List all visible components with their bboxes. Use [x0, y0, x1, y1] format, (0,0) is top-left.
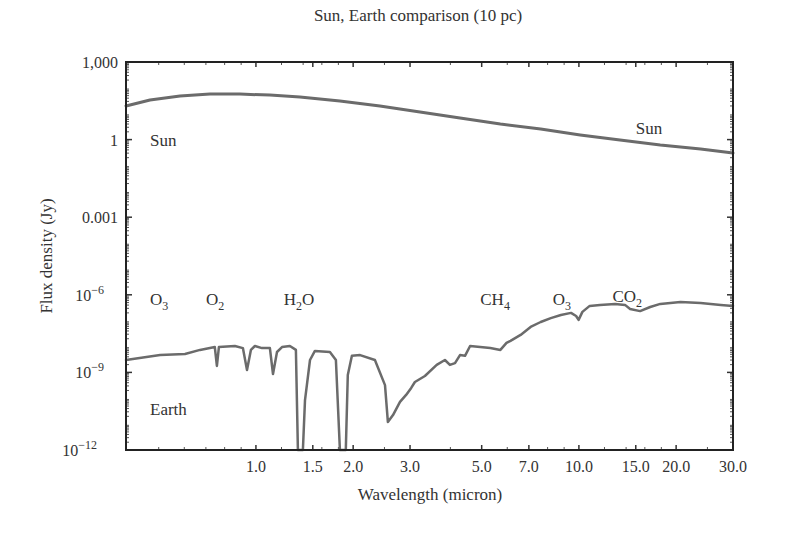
y-tick-label: 1 [110, 132, 118, 149]
x-tick-label: 15.0 [622, 458, 650, 475]
o3-label-left: O3 [150, 290, 168, 313]
chart: Sun, Earth comparison (10 pc) 1.01.52.03… [0, 0, 787, 535]
sun-label-left: Sun [150, 131, 177, 150]
series-group [126, 94, 733, 450]
x-tick-label: 10.0 [565, 458, 593, 475]
x-tick-label: 1.0 [246, 458, 266, 475]
x-tick-label: 5.0 [472, 458, 492, 475]
o2-label: O2 [206, 290, 224, 313]
y-tick-label: 10−12 [62, 438, 97, 459]
y-tick-label: 10−9 [75, 360, 104, 381]
x-tick-label: 1.5 [303, 458, 323, 475]
series-line-earth [126, 302, 733, 450]
x-axis-label: Wavelength (micron) [358, 485, 503, 504]
o3-label-right: O3 [553, 290, 571, 313]
h2o-label: H2O [284, 290, 315, 313]
sun-label-right: Sun [636, 119, 663, 138]
chart-title: Sun, Earth comparison (10 pc) [314, 6, 522, 25]
ch4-label: CH4 [480, 290, 510, 313]
y-tick-label: 10−6 [75, 283, 104, 304]
y-tick-label: 1,000 [82, 54, 118, 71]
x-tick-label: 30.0 [719, 458, 747, 475]
x-tick-label: 7.0 [519, 458, 539, 475]
earth-label: Earth [150, 400, 187, 419]
annotations: SunSunEarthO3O2H2OCH4O3CO2 [150, 119, 663, 419]
y-axis-label: Flux density (Jy) [37, 198, 56, 313]
y-tick-label: 0.001 [82, 209, 118, 226]
x-tick-label: 3.0 [400, 458, 420, 475]
x-tick-label: 20.0 [662, 458, 690, 475]
x-tick-label: 2.0 [343, 458, 363, 475]
